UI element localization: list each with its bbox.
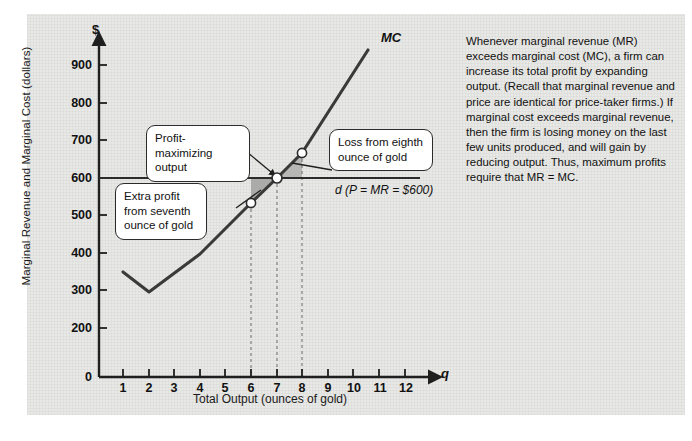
- economics-figure: $ q 900 800 700 600 500 400 300 200 0 1 …: [0, 0, 692, 441]
- callout-loss-line2: ounce of gold: [338, 150, 424, 165]
- y-tick-200: 200: [58, 321, 92, 335]
- y-tick-0: 0: [58, 370, 92, 384]
- marker-seventh-ounce: [246, 198, 255, 207]
- callout-extra-profit-line1: Extra profit: [124, 189, 198, 204]
- x-axis-unit-symbol: q: [441, 366, 449, 381]
- y-tick-900: 900: [58, 58, 92, 72]
- callout-loss-eighth-ounce[interactable]: Loss from eighth ounce of gold: [329, 129, 433, 171]
- mc-curve-label: MC: [381, 30, 401, 45]
- y-tick-500: 500: [58, 208, 92, 222]
- callout-profit-maximizing-text: Profit-maximizing output: [155, 132, 213, 173]
- y-tick-600: 600: [58, 171, 92, 185]
- callout-extra-profit[interactable]: Extra profit from seventh ounce of gold: [115, 183, 207, 240]
- mr-line-label: d (P = MR = $600): [335, 183, 433, 197]
- y-tick-800: 800: [58, 96, 92, 110]
- explanation-paragraph: Whenever marginal revenue (MR) exceeds m…: [466, 34, 676, 186]
- callout-extra-profit-line2: from seventh: [124, 204, 198, 219]
- y-axis-unit-symbol: $: [92, 22, 99, 37]
- callout-profit-maximizing[interactable]: Profit-maximizing output: [146, 125, 250, 182]
- y-axis-title: Marginal Revenue and Marginal Cost (doll…: [20, 36, 32, 296]
- callout-extra-profit-line3: ounce of gold: [124, 218, 198, 233]
- x-axis-title: Total Output (ounces of gold): [120, 392, 420, 406]
- marker-profit-maximizing: [272, 173, 282, 183]
- leader-line-profit-max: [247, 152, 271, 172]
- callout-loss-line1: Loss from eighth: [338, 135, 424, 150]
- y-tick-400: 400: [58, 246, 92, 260]
- y-tick-300: 300: [58, 283, 92, 297]
- y-tick-700: 700: [58, 133, 92, 147]
- marker-eighth-ounce: [297, 148, 306, 157]
- plot-area: $ q 900 800 700 600 500 400 300 200 0 1 …: [0, 0, 692, 441]
